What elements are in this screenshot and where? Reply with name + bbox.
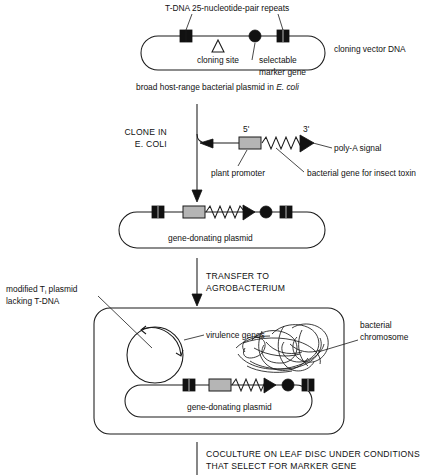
- plant-promoter-label: plant promoter: [211, 168, 265, 178]
- cloning-site-label: cloning site: [197, 55, 239, 65]
- diagram-canvas: T-DNA 25-nucleotide-pair repeats cloning…: [0, 0, 444, 475]
- agrobacterium-transformation-diagram: T-DNA 25-nucleotide-pair repeats cloning…: [0, 0, 444, 475]
- bacterial-gene-label: bacterial gene for insect toxin: [307, 168, 416, 178]
- gray-rectangle-icon: [239, 137, 261, 149]
- arc-arrow-tail: [176, 350, 183, 356]
- ti-plasmid-label-line2: lacking T-DNA: [6, 296, 60, 306]
- stage-cloning-vector: T-DNA 25-nucleotide-pair repeats cloning…: [136, 3, 406, 92]
- marker-gene-label-line1: selectable: [259, 55, 297, 65]
- gray-rectangle-icon: [209, 379, 231, 391]
- black-triangle-icon: [243, 205, 255, 220]
- open-triangle-icon: [212, 40, 224, 52]
- donor-plasmid-label: gene-donating plasmid: [168, 233, 253, 243]
- coculture-step-line2: THAT SELECT FOR MARKER GENE: [206, 461, 356, 471]
- leader-chromosome: [318, 340, 358, 352]
- leader-polya: [313, 143, 332, 148]
- three-prime-label: 3': [303, 124, 310, 134]
- black-triangle-icon: [264, 378, 276, 393]
- ti-plasmid-label-line1: modified Ti plasmid: [6, 284, 78, 295]
- stage-clone-in-ecoli: CLONE IN E. COLI 5' 3' poly-A signal pla…: [124, 104, 416, 202]
- caption-species: E. coli: [276, 82, 300, 92]
- transfer-step-line2: AGROBACTERIUM: [206, 283, 285, 293]
- stage-gene-donating-plasmid: gene-donating plasmid TRANSFER TO AGROBA…: [119, 205, 325, 306]
- leader-ti-plasmid: [98, 296, 152, 348]
- ti-plasmid-circle: [127, 327, 183, 383]
- black-circle-icon: [249, 30, 261, 42]
- stage-coculture: COCULTURE ON LEAF DISC UNDER CONDITIONS …: [197, 442, 420, 475]
- polya-signal-label: poly-A signal: [334, 143, 382, 153]
- caption-pre: broad host-range bacterial plasmid in: [136, 82, 276, 92]
- ti-label-pre: modified T: [6, 284, 45, 294]
- ti-label-post: plasmid: [46, 284, 78, 294]
- left-arrow-icon: [200, 139, 213, 148]
- clone-step-line1: CLONE IN: [124, 127, 167, 137]
- zigzag-line-icon: [262, 137, 301, 149]
- host-range-caption: broad host-range bacterial plasmid in E.…: [136, 82, 300, 92]
- leader-promoter: [238, 150, 247, 166]
- leader-tdna-right: [278, 14, 283, 30]
- down-arrow-icon: [192, 190, 202, 202]
- inner-donor-plasmid-label: gene-donating plasmid: [187, 402, 272, 412]
- stage-agrobacterium-cell: modified Ti plasmid lacking T-DNA virule…: [6, 284, 409, 434]
- virulence-genes-label: virulence genes: [206, 330, 265, 340]
- marker-gene-label-line2: marker gene: [259, 67, 306, 77]
- transfer-step-line1: TRANSFER TO: [206, 271, 269, 281]
- leader-marker-gene: [252, 43, 255, 60]
- leader-tdna-left: [186, 14, 192, 30]
- coculture-step-line1: COCULTURE ON LEAF DISC UNDER CONDITIONS: [206, 449, 420, 459]
- cloning-vector-dna-label: cloning vector DNA: [334, 44, 406, 54]
- black-circle-icon: [282, 379, 294, 391]
- gray-rectangle-icon: [183, 206, 205, 218]
- clone-step-line2: E. COLI: [135, 139, 167, 149]
- leader-virulence: [184, 335, 204, 340]
- bacterial-chromosome-label-line1: bacterial: [360, 320, 392, 330]
- down-arrow-icon: [192, 294, 202, 306]
- arc-arrow-icon: [142, 328, 181, 355]
- five-prime-label: 5': [243, 124, 250, 134]
- black-triangle-icon: [300, 135, 314, 152]
- tdna-repeats-label: T-DNA 25-nucleotide-pair repeats: [165, 3, 289, 13]
- black-circle-icon: [260, 206, 272, 218]
- bacterial-chromosome-label-line2: chromosome: [360, 332, 409, 342]
